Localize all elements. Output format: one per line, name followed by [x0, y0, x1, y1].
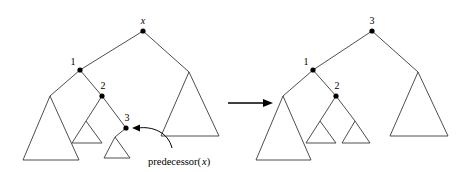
- edge-2-to-small-subtree-a: [320, 96, 336, 121]
- edge-3-to-1: [313, 31, 372, 70]
- node-label-1: 1: [304, 56, 309, 67]
- right-tree-after: 3 1 2: [256, 15, 448, 160]
- edge-1-to-left-subtree: [50, 70, 80, 96]
- edge-1-to-2: [313, 70, 336, 96]
- subtree-triangle-second-small: [342, 121, 370, 143]
- node-label-2: 2: [335, 80, 340, 91]
- node-label-2: 2: [101, 80, 106, 91]
- predecessor-callout-curve: [138, 128, 172, 148]
- subtree-triangle-right-large: [390, 72, 448, 136]
- node-label-x: x: [140, 15, 146, 26]
- node-x[interactable]: [140, 28, 145, 33]
- subtree-triangle-leaf-small: [104, 137, 130, 158]
- edge-x-to-right-subtree: [143, 31, 189, 72]
- edge-x-to-1: [80, 31, 143, 70]
- node-label-3: 3: [370, 15, 375, 26]
- transition-arrow: [228, 99, 273, 107]
- left-tree-before: x 1 2 3 predecessor(x): [23, 15, 219, 168]
- subtree-triangle-left-large: [23, 96, 79, 160]
- subtree-triangle-middle-small: [306, 121, 336, 143]
- node-2[interactable]: [99, 93, 104, 98]
- node-2[interactable]: [333, 93, 338, 98]
- edge-1-to-left-subtree: [283, 70, 313, 96]
- node-label-3: 3: [125, 112, 130, 123]
- edge-2-to-small-subtree: [86, 96, 102, 121]
- node-3[interactable]: [123, 125, 128, 130]
- predecessor-caption: predecessor(x): [148, 156, 211, 168]
- edge-2-to-3: [102, 96, 126, 128]
- subtree-triangle-right-large: [161, 72, 219, 136]
- node-1[interactable]: [77, 67, 82, 72]
- node-label-1: 1: [71, 56, 76, 67]
- node-1[interactable]: [310, 67, 315, 72]
- figure-root: x 1 2 3 predecessor(x): [0, 0, 470, 172]
- edge-3-to-right-subtree: [372, 31, 418, 72]
- edge-2-to-small-subtree-b: [336, 96, 355, 121]
- predecessor-caption-main: predecessor(: [148, 156, 202, 168]
- transition-arrow-head: [263, 99, 273, 107]
- predecessor-callout-arrowhead: [132, 125, 140, 132]
- tree-transformation-diagram: x 1 2 3 predecessor(x): [0, 0, 470, 172]
- predecessor-caption-close: ): [207, 156, 211, 168]
- subtree-triangle-middle-small: [72, 121, 102, 143]
- node-3[interactable]: [369, 28, 374, 33]
- edge-1-to-2: [80, 70, 102, 96]
